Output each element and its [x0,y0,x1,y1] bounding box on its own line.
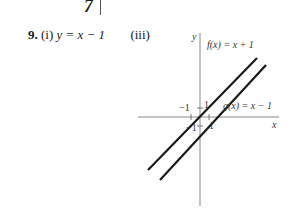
g-x-intercept-label: 1 [209,120,214,131]
g-y-intercept-label: −1 [186,122,197,133]
f-x-intercept-label: −1 [179,102,190,113]
line-graph: y x f(x) = x + 1 g(x) = x − 1 −1 1 −1 1 [0,0,292,208]
line-f [148,58,257,170]
f-label: f(x) = x + 1 [207,39,254,51]
f-y-intercept-label: 1 [204,99,209,110]
y-axis-label: y [191,31,197,42]
x-axis-label: x [271,119,277,130]
g-label: g(x) = x − 1 [223,100,272,112]
